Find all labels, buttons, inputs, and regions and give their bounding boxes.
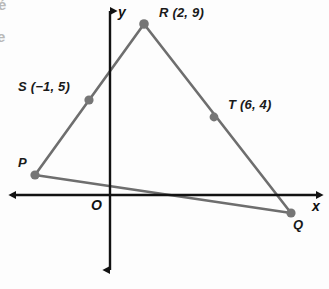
point-S: [84, 95, 93, 104]
segment-group: [35, 24, 291, 213]
point-T: [210, 113, 219, 122]
page-edge-fragment-top: é: [0, 0, 8, 14]
point-label-P: P: [18, 155, 27, 170]
point-label-R: R (2, 9): [159, 5, 204, 20]
point-label-S: S (−1, 5): [18, 79, 70, 94]
point-R: [139, 19, 149, 29]
point-label-Q: Q: [293, 217, 303, 232]
point-P: [30, 170, 39, 179]
coordinate-plane-figure: R (2, 9) S (−1, 5) T (6, 4) P Q y x O é …: [0, 0, 329, 289]
origin-label: O: [91, 197, 102, 213]
page-edge-fragment-left: e: [0, 28, 7, 46]
y-axis-label: y: [118, 4, 126, 20]
point-label-T: T (6, 4): [228, 97, 272, 112]
plot-canvas: [0, 0, 329, 289]
x-axis-label: x: [312, 198, 320, 214]
